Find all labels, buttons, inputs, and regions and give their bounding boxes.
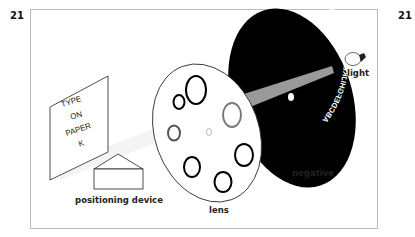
label-light: light xyxy=(347,68,369,78)
label-negative: negative xyxy=(292,168,334,178)
light-bulb-icon xyxy=(345,53,366,66)
photo-typesetter-diagram: ABCDEFGHIJKLMNOPQRSTUVWXYZ123456789 TYPE… xyxy=(0,0,415,237)
negative-hub xyxy=(288,93,294,101)
label-lens: lens xyxy=(209,205,229,215)
label-positioning-device: positioning device xyxy=(75,195,163,205)
